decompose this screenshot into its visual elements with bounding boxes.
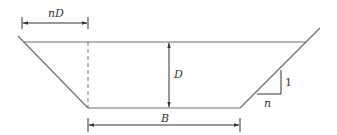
left-side-slope bbox=[18, 36, 88, 108]
slope-vertical-label: 1 bbox=[285, 76, 292, 89]
nd-label: nD bbox=[48, 7, 64, 20]
channel-diagram: nD D B n 1 bbox=[0, 0, 337, 135]
bottom-width-label: B bbox=[160, 112, 169, 125]
depth-label: D bbox=[173, 68, 183, 81]
slope-horizontal-label: n bbox=[264, 97, 271, 110]
right-side-slope bbox=[240, 28, 320, 108]
